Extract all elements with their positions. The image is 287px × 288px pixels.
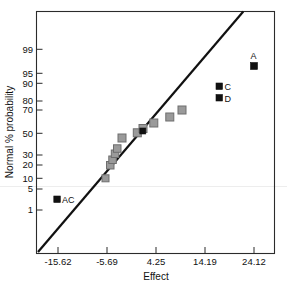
plot-frame bbox=[37, 12, 275, 254]
x-tick-label-4: 14.19 bbox=[193, 256, 217, 267]
y-axis-ticks bbox=[37, 49, 43, 210]
data-point-gray bbox=[166, 113, 174, 121]
y-tick-label-99: 99 bbox=[22, 44, 33, 55]
data-point-gray bbox=[118, 134, 126, 142]
data-point-gray bbox=[150, 119, 158, 127]
y-tick-label-10: 10 bbox=[22, 173, 33, 184]
data-point-gray bbox=[114, 145, 122, 153]
x-tick-label-2: -5.69 bbox=[96, 256, 118, 267]
data-point-d bbox=[216, 95, 223, 102]
data-point-gray bbox=[178, 106, 186, 114]
chart-canvas: 99 95 90 80 70 50 30 20 10 5 1 -15.62 -5… bbox=[0, 0, 287, 288]
y-tick-label-5: 5 bbox=[28, 183, 33, 194]
point-label-d: D bbox=[225, 94, 232, 104]
x-tick-label-1: -15.62 bbox=[45, 256, 72, 267]
data-point-gray bbox=[102, 175, 109, 182]
y-tick-label-90: 90 bbox=[22, 78, 33, 89]
point-label-c: C bbox=[225, 82, 232, 92]
point-annotations: AC C D A bbox=[62, 51, 257, 205]
x-axis-tick-labels: -15.62 -5.69 4.25 14.19 24.12 bbox=[45, 256, 266, 267]
y-tick-label-1: 1 bbox=[28, 204, 33, 215]
y-axis-tick-labels: 99 95 90 80 70 50 30 20 10 5 1 bbox=[22, 44, 33, 216]
point-label-ac: AC bbox=[62, 195, 75, 205]
data-point-ac bbox=[54, 196, 61, 203]
y-tick-label-70: 70 bbox=[22, 104, 33, 115]
data-point-a bbox=[251, 63, 258, 70]
x-axis-title: Effect bbox=[143, 271, 169, 282]
y-tick-label-20: 20 bbox=[22, 159, 33, 170]
y-axis-title: Normal % probability bbox=[4, 86, 15, 178]
normal-probability-plot-figure: 99 95 90 80 70 50 30 20 10 5 1 -15.62 -5… bbox=[0, 0, 287, 288]
x-axis-ticks bbox=[58, 247, 254, 254]
point-label-a: A bbox=[251, 51, 257, 61]
y-tick-label-50: 50 bbox=[22, 128, 33, 139]
data-point-on-line bbox=[140, 128, 146, 134]
data-markers-gray bbox=[102, 106, 186, 182]
x-tick-label-5: 24.12 bbox=[242, 256, 266, 267]
x-tick-label-3: 4.25 bbox=[147, 256, 166, 267]
data-point-c bbox=[216, 83, 223, 90]
